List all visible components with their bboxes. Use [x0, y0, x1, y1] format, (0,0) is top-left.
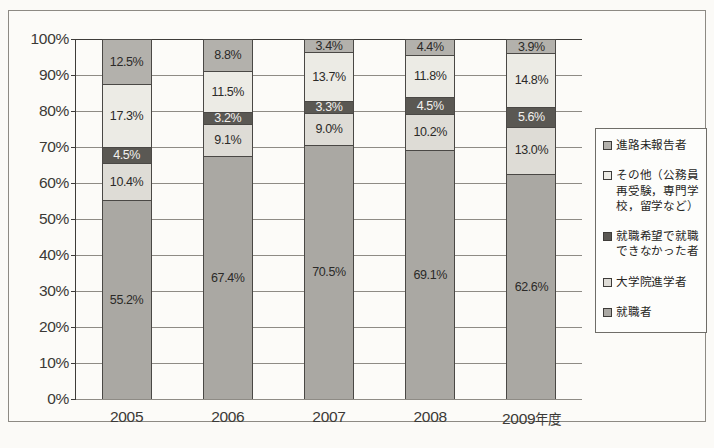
bar-segment-s2-2006[interactable]: 3.2% — [203, 112, 253, 124]
bar-segment-s3-2008[interactable]: 11.8% — [405, 55, 455, 97]
gridline-0 — [76, 399, 582, 400]
bar-2008[interactable]: 69.1%10.2%4.5%11.8%4.4% — [405, 39, 455, 399]
bar-segment-value-label: 5.6% — [518, 111, 545, 124]
legend-swatch-icon-s3 — [603, 171, 612, 180]
bar-segment-s3-2009[interactable]: 14.8% — [506, 53, 556, 106]
y-tickmark — [71, 291, 76, 292]
legend-label: 就職希望で就職できなかった者 — [616, 229, 700, 260]
bar-segment-value-label: 69.1% — [413, 269, 446, 282]
chart-legend: 進路未報告者その他（公務員再受験，専門学校，留学など）就職希望で就職できなかった… — [595, 128, 707, 333]
bar-segment-value-label: 10.2% — [413, 126, 446, 139]
y-axis-tick-label: 100% — [31, 30, 69, 48]
bar-segment-value-label: 9.1% — [214, 134, 241, 147]
y-tickmark — [71, 219, 76, 220]
bar-segment-value-label: 13.0% — [515, 144, 548, 157]
legend-label: 大学院進学者 — [616, 275, 687, 290]
legend-label: 就職者 — [616, 305, 651, 320]
bar-2005[interactable]: 55.2%10.4%4.5%17.3%12.5% — [102, 39, 152, 399]
y-tickmark — [71, 399, 76, 400]
y-tickmark — [71, 327, 76, 328]
legend-swatch-icon-s1 — [603, 278, 612, 287]
bar-segment-value-label: 3.3% — [316, 101, 343, 114]
bar-segment-value-label: 14.8% — [515, 74, 548, 87]
chart-frame: 0%10%20%30%40%50%60%70%80%90%100% 55.2%1… — [8, 10, 706, 422]
y-tickmark — [71, 183, 76, 184]
bar-segment-value-label: 9.0% — [316, 123, 343, 136]
y-axis-tick-label: 20% — [39, 318, 69, 336]
x-axis-tick-label-2006: 2006 — [211, 408, 244, 426]
y-axis-tick-label: 30% — [39, 282, 69, 300]
bar-segment-s1-2005[interactable]: 10.4% — [102, 163, 152, 200]
plot-area: 0%10%20%30%40%50%60%70%80%90%100% 55.2%1… — [75, 39, 582, 400]
bar-segment-s4-2006[interactable]: 8.8% — [203, 39, 253, 71]
bar-segment-value-label: 13.7% — [312, 71, 345, 84]
x-axis-tick-label-2007: 2007 — [312, 408, 345, 426]
y-axis-tick-label: 50% — [39, 210, 69, 228]
y-axis-tick-label: 70% — [39, 138, 69, 156]
y-axis-tick-label: 40% — [39, 246, 69, 264]
legend-item-s2[interactable]: 就職希望で就職できなかった者 — [603, 229, 700, 260]
bar-segment-s1-2008[interactable]: 10.2% — [405, 114, 455, 151]
bar-segment-s0-2006[interactable]: 67.4% — [203, 156, 253, 399]
bar-segment-value-label: 17.3% — [110, 110, 143, 123]
bar-segment-s4-2009[interactable]: 3.9% — [506, 39, 556, 53]
bar-segment-s2-2008[interactable]: 4.5% — [405, 97, 455, 113]
bar-segment-s3-2006[interactable]: 11.5% — [203, 71, 253, 112]
x-axis-tick-label-2005: 2005 — [110, 408, 143, 426]
bar-segment-value-label: 8.8% — [214, 49, 241, 62]
bar-segment-s0-2007[interactable]: 70.5% — [304, 145, 354, 399]
bar-segment-s3-2007[interactable]: 13.7% — [304, 52, 354, 101]
bar-segment-s4-2008[interactable]: 4.4% — [405, 39, 455, 55]
legend-swatch-icon-s2 — [603, 232, 612, 241]
bar-segment-value-label: 4.5% — [113, 149, 140, 162]
y-axis-tick-label: 10% — [39, 354, 69, 372]
bar-segment-value-label: 11.8% — [414, 70, 447, 83]
bar-segment-s2-2009[interactable]: 5.6% — [506, 107, 556, 127]
bar-segment-value-label: 10.4% — [110, 176, 143, 189]
bar-segment-s2-2007[interactable]: 3.3% — [304, 101, 354, 113]
y-tickmark — [71, 39, 76, 40]
bar-2009[interactable]: 62.6%13.0%5.6%14.8%3.9% — [506, 39, 556, 399]
bar-segment-value-label: 4.5% — [417, 100, 444, 113]
y-axis-tick-label: 80% — [39, 102, 69, 120]
bar-segment-s0-2008[interactable]: 69.1% — [405, 150, 455, 399]
legend-item-s3[interactable]: その他（公務員再受験，専門学校，留学など） — [603, 168, 700, 214]
bar-segment-value-label: 12.5% — [110, 56, 143, 69]
legend-label: 進路未報告者 — [616, 138, 687, 153]
bar-segment-s1-2006[interactable]: 9.1% — [203, 124, 253, 157]
bar-segment-value-label: 67.4% — [211, 272, 244, 285]
bar-segment-value-label: 3.2% — [214, 112, 241, 125]
y-tickmark — [71, 75, 76, 76]
y-tickmark — [71, 147, 76, 148]
y-axis-tick-label: 90% — [39, 66, 69, 84]
bar-segment-value-label: 70.5% — [312, 266, 345, 279]
bar-segment-s4-2005[interactable]: 12.5% — [102, 39, 152, 84]
bar-2006[interactable]: 67.4%9.1%3.2%11.5%8.8% — [203, 39, 253, 399]
bar-segment-value-label: 4.4% — [417, 41, 444, 54]
legend-item-s0[interactable]: 就職者 — [603, 305, 700, 320]
bar-segment-value-label: 62.6% — [515, 281, 548, 294]
y-axis-tick-label: 60% — [39, 174, 69, 192]
legend-item-s4[interactable]: 進路未報告者 — [603, 138, 700, 153]
bar-segment-s0-2009[interactable]: 62.6% — [506, 174, 556, 399]
x-axis-tick-label-2008: 2008 — [414, 408, 447, 426]
bar-segment-s2-2005[interactable]: 4.5% — [102, 147, 152, 163]
bar-2007[interactable]: 70.5%9.0%3.3%13.7%3.4% — [304, 39, 354, 399]
bar-segment-value-label: 11.5% — [212, 86, 245, 99]
legend-swatch-icon-s0 — [603, 308, 612, 317]
bar-segment-value-label: 3.9% — [518, 41, 545, 54]
y-tickmark — [71, 255, 76, 256]
x-axis-tick-label-2009: 2009年度 — [502, 408, 561, 428]
bar-segment-value-label: 55.2% — [110, 294, 143, 307]
bar-segment-s0-2005[interactable]: 55.2% — [102, 200, 152, 399]
bar-segment-s1-2007[interactable]: 9.0% — [304, 113, 354, 145]
bar-segment-s1-2009[interactable]: 13.0% — [506, 127, 556, 174]
y-tickmark — [71, 363, 76, 364]
legend-item-s1[interactable]: 大学院進学者 — [603, 275, 700, 290]
legend-swatch-icon-s4 — [603, 141, 612, 150]
y-tickmark — [71, 111, 76, 112]
bar-segment-s4-2007[interactable]: 3.4% — [304, 39, 354, 51]
y-axis-tick-label: 0% — [47, 390, 69, 408]
legend-label: その他（公務員再受験，専門学校，留学など） — [616, 168, 700, 214]
bar-segment-s3-2005[interactable]: 17.3% — [102, 84, 152, 146]
